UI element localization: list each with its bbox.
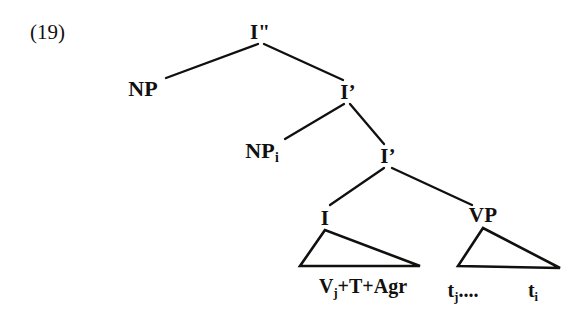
leaf-trace-j: tj.... (448, 280, 479, 300)
node-i-double-prime: I" (250, 22, 270, 43)
branch-root-to-i-bar-upper (264, 44, 343, 80)
syntax-tree-figure: (19) I" NP I’ NPi I’ I VP Vj+T+Agr tj...… (0, 0, 585, 322)
leaf-verb-index: j (333, 286, 337, 300)
vp-triangle (458, 228, 560, 268)
tree-branch-lines (0, 0, 585, 322)
node-np-subject-index: i (275, 150, 279, 165)
leaf-verb-affixes: +T+Agr (338, 275, 407, 297)
branch-i-bar-lower-to-vp (392, 168, 472, 205)
i-head-triangle (300, 230, 420, 266)
node-vp: VP (469, 205, 497, 226)
node-i-head: I (321, 208, 329, 229)
node-np-subject-text: NP (245, 138, 275, 163)
leaf-trace-i-text: t (528, 279, 535, 301)
branch-i-bar-lower-to-i-head (330, 168, 384, 205)
branch-i-bar-upper-to-np-i (285, 104, 344, 139)
leaf-trace-i: ti (528, 280, 538, 300)
leaf-verb-text: V (319, 275, 333, 297)
leaf-trace-j-index: j (454, 290, 458, 304)
node-np-subject: NPi (245, 140, 279, 162)
leaf-trace-j-text: t (448, 279, 455, 301)
node-i-bar-upper: I’ (340, 82, 356, 103)
node-np-specifier: NP (128, 78, 158, 100)
leaf-trace-j-ellipsis: .... (458, 279, 478, 301)
node-i-bar-lower: I’ (380, 146, 396, 167)
leaf-i-head-content: Vj+T+Agr (319, 276, 407, 296)
branch-root-to-np-spec (166, 44, 258, 78)
leaf-trace-i-index: i (535, 290, 538, 304)
branch-i-bar-upper-to-i-bar-lower (350, 104, 384, 144)
